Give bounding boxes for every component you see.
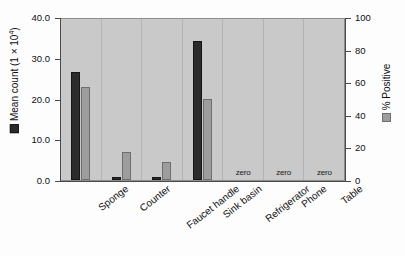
left-axis-tick-label: 30.0	[32, 54, 51, 64]
bar-percent-positive-faucet-handle	[162, 162, 171, 180]
right-axis-tick	[346, 83, 351, 84]
left-axis-tick	[55, 140, 60, 141]
right-axis-tick-label: 100	[355, 13, 371, 23]
right-axis-tick	[346, 51, 351, 52]
left-axis-tick-label: 20.0	[32, 95, 51, 105]
category-group-refrigerator: zero	[223, 19, 264, 180]
category-group-counter	[102, 19, 143, 180]
bar-mean-count-counter	[112, 177, 121, 180]
right-axis-tick	[346, 148, 351, 149]
right-axis-title: % Positive	[382, 33, 392, 153]
chart-figure: zerozerozero 0.010.020.030.040.002040608…	[0, 0, 405, 256]
zero-annotation-table: zero	[304, 168, 344, 177]
left-axis-tick-label: 10.0	[32, 135, 51, 145]
left-axis-title-text-suffix: )	[9, 27, 20, 30]
category-group-sponge	[61, 19, 102, 180]
right-axis-title-text: % Positive	[381, 64, 392, 111]
left-axis-line	[60, 18, 61, 182]
right-axis-tick	[346, 181, 351, 182]
category-group-faucet-handle	[142, 19, 183, 180]
left-axis-tick	[55, 59, 60, 60]
category-labels: SpongeCounterFaucet handleSink basinRefr…	[60, 183, 345, 253]
left-axis-tick	[55, 100, 60, 101]
category-label-sponge: Sponge	[97, 183, 131, 213]
bar-mean-count-faucet-handle	[152, 177, 161, 180]
right-axis-tick-label: 80	[355, 46, 366, 56]
category-group-table: zero	[304, 19, 344, 180]
left-axis-tick	[55, 18, 60, 19]
category-label-table: Table	[339, 183, 365, 206]
right-axis-tick	[346, 18, 351, 19]
zero-annotation-phone: zero	[264, 168, 304, 177]
category-group-sink-basin	[183, 19, 224, 180]
left-axis-tick	[55, 181, 60, 182]
left-axis-title: Mean count (1 × 104)	[8, 20, 20, 140]
right-axis-tick	[346, 116, 351, 117]
right-axis-tick-label: 40	[355, 111, 366, 121]
right-axis-tick-label: 60	[355, 78, 366, 88]
category-group-phone: zero	[264, 19, 305, 180]
bars-layer: zerozerozero	[61, 19, 344, 180]
bar-percent-positive-sponge	[81, 87, 90, 180]
plot-area: zerozerozero	[60, 18, 345, 181]
bar-percent-positive-sink-basin	[203, 99, 212, 181]
left-axis-title-text-prefix: Mean count (1 × 10	[9, 35, 20, 121]
right-axis-line	[345, 18, 346, 182]
legend-swatch-mean-count	[10, 124, 19, 133]
bar-percent-positive-counter	[122, 152, 131, 180]
legend-swatch-percent-positive	[382, 113, 391, 122]
category-label-counter: Counter	[138, 183, 173, 214]
zero-annotation-refrigerator: zero	[223, 168, 263, 177]
left-axis-tick-label: 0.0	[37, 176, 50, 186]
left-axis-title-exponent: 4	[8, 31, 15, 35]
right-axis-tick-label: 20	[355, 143, 366, 153]
left-axis-tick-label: 40.0	[32, 13, 51, 23]
bottom-axis-line	[60, 181, 346, 182]
bar-mean-count-sponge	[71, 72, 80, 180]
bar-mean-count-sink-basin	[193, 41, 202, 180]
